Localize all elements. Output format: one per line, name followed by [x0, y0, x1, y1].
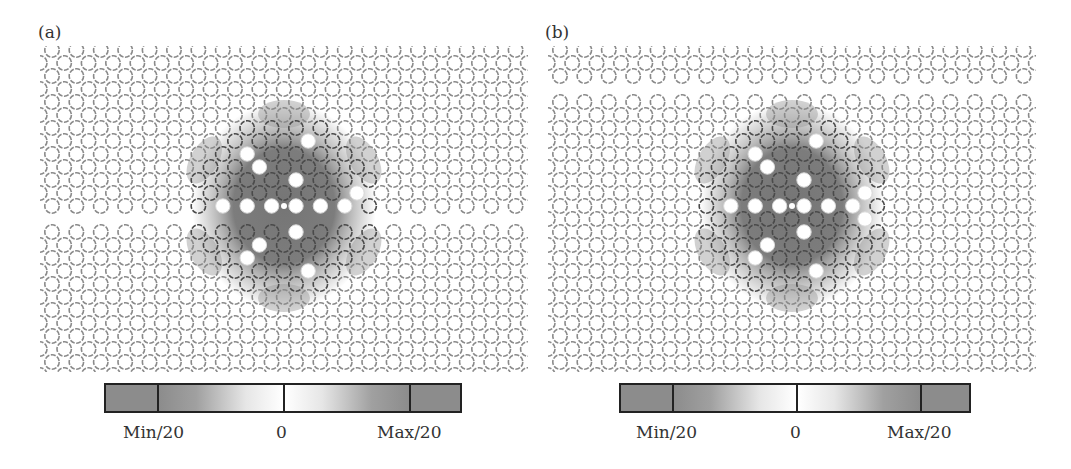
air-hole: [435, 199, 449, 213]
air-hole: [1004, 290, 1018, 304]
air-hole: [447, 264, 461, 278]
air-hole: [350, 108, 364, 122]
air-hole: [155, 186, 169, 200]
air-hole: [553, 329, 567, 343]
air-hole: [894, 329, 908, 343]
air-hole: [846, 303, 860, 317]
air-hole: [894, 147, 908, 161]
air-hole: [350, 82, 364, 96]
air-hole: [577, 46, 591, 57]
air-hole: [106, 56, 120, 70]
air-hole: [94, 46, 108, 57]
air-hole: [748, 329, 762, 343]
air-hole: [155, 108, 169, 122]
air-hole: [240, 199, 254, 213]
air-hole: [748, 46, 762, 57]
air-hole: [216, 95, 230, 109]
air-hole: [1029, 186, 1036, 200]
air-hole: [423, 108, 437, 122]
air-hole: [435, 251, 449, 265]
air-hole: [130, 82, 144, 96]
air-hole: [447, 82, 461, 96]
air-hole: [1016, 46, 1030, 57]
air-hole: [980, 264, 994, 278]
air-hole: [216, 303, 230, 317]
air-hole: [240, 46, 254, 57]
air-hole: [980, 368, 994, 372]
air-hole: [968, 251, 982, 265]
air-hole: [919, 121, 933, 135]
air-hole: [40, 108, 47, 122]
air-hole: [289, 329, 303, 343]
air-hole: [447, 290, 461, 304]
air-hole: [313, 199, 327, 213]
air-hole: [301, 134, 315, 148]
air-hole: [699, 355, 713, 369]
air-hole: [40, 342, 47, 356]
air-hole: [264, 329, 278, 343]
air-hole: [968, 121, 982, 135]
air-hole: [203, 56, 217, 70]
air-hole: [638, 368, 652, 372]
panel-a-field-map: [40, 46, 528, 372]
air-hole: [179, 316, 193, 330]
air-hole: [919, 46, 933, 57]
air-hole: [882, 368, 896, 372]
air-hole: [338, 95, 352, 109]
air-hole: [447, 316, 461, 330]
air-hole: [858, 290, 872, 304]
air-hole: [577, 277, 591, 291]
air-hole: [350, 186, 364, 200]
air-hole: [167, 147, 181, 161]
colorbar-min-saturated: [621, 385, 672, 411]
air-hole: [1004, 134, 1018, 148]
air-hole: [589, 290, 603, 304]
air-hole: [955, 316, 969, 330]
air-hole: [81, 264, 95, 278]
air-hole: [203, 82, 217, 96]
air-hole: [167, 95, 181, 109]
air-hole: [1016, 95, 1030, 109]
air-hole: [69, 303, 83, 317]
air-hole: [943, 225, 957, 239]
air-hole: [833, 368, 847, 372]
air-hole: [69, 121, 83, 135]
air-hole: [130, 342, 144, 356]
cavity-center: [789, 203, 795, 209]
air-hole: [870, 277, 884, 291]
air-hole: [602, 121, 616, 135]
air-hole: [1016, 121, 1030, 135]
air-hole: [94, 225, 108, 239]
air-hole: [69, 173, 83, 187]
air-hole: [760, 368, 774, 372]
air-hole: [577, 121, 591, 135]
air-hole: [155, 368, 169, 372]
air-hole: [870, 303, 884, 317]
air-hole: [736, 342, 750, 356]
air-hole: [548, 316, 555, 330]
air-hole: [565, 342, 579, 356]
air-hole: [614, 342, 628, 356]
air-hole: [931, 238, 945, 252]
air-hole: [508, 277, 522, 291]
air-hole: [919, 95, 933, 109]
air-hole: [821, 355, 835, 369]
air-hole: [882, 186, 896, 200]
air-hole: [142, 329, 156, 343]
air-hole: [736, 368, 750, 372]
air-hole: [155, 134, 169, 148]
air-hole: [687, 342, 701, 356]
air-hole: [548, 238, 555, 252]
air-hole: [496, 316, 510, 330]
air-hole: [155, 160, 169, 174]
air-hole: [521, 342, 528, 356]
air-hole: [992, 225, 1006, 239]
air-hole: [45, 199, 59, 213]
air-hole: [760, 56, 774, 70]
air-hole: [931, 264, 945, 278]
air-hole: [785, 56, 799, 70]
air-hole: [277, 82, 291, 96]
air-hole: [955, 238, 969, 252]
air-hole: [992, 95, 1006, 109]
air-hole: [748, 251, 762, 265]
